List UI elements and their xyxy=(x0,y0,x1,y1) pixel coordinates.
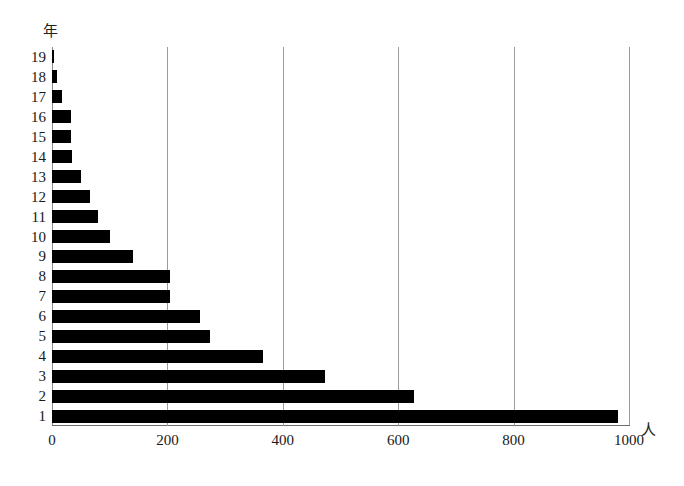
bar-year-3 xyxy=(52,370,325,383)
x-tick-label-400: 400 xyxy=(272,432,295,448)
bar-chart: 年 人 19181716151413121110987654321 020040… xyxy=(0,0,684,486)
y-tick-label-4: 4 xyxy=(0,349,46,363)
bar-row xyxy=(52,290,630,309)
y-tick-label-18: 18 xyxy=(0,70,46,84)
y-tick-label-8: 8 xyxy=(0,269,46,283)
x-tick-label-0: 0 xyxy=(48,432,56,448)
bar-year-8 xyxy=(52,270,170,283)
bar-row xyxy=(52,370,630,389)
y-tick-label-5: 5 xyxy=(0,329,46,343)
bar-row xyxy=(52,350,630,369)
y-tick-label-2: 2 xyxy=(0,389,46,403)
bar-year-18 xyxy=(52,70,57,83)
bar-row xyxy=(52,210,630,229)
y-axis-unit-label: 年 xyxy=(43,24,58,39)
bar-year-15 xyxy=(52,130,71,143)
bar-row xyxy=(52,390,630,409)
bar-year-2 xyxy=(52,390,414,403)
bar-row xyxy=(52,270,630,289)
bar-year-1 xyxy=(52,410,618,423)
y-tick-label-10: 10 xyxy=(0,230,46,244)
bar-row xyxy=(52,110,630,129)
bar-year-9 xyxy=(52,250,133,263)
bar-row xyxy=(52,230,630,249)
bar-year-5 xyxy=(52,330,210,343)
bar-year-17 xyxy=(52,90,62,103)
bar-year-6 xyxy=(52,310,200,323)
bar-row xyxy=(52,410,630,429)
bar-year-13 xyxy=(52,170,81,183)
y-tick-label-12: 12 xyxy=(0,190,46,204)
bar-row xyxy=(52,310,630,329)
bar-year-19 xyxy=(52,50,54,63)
bar-year-16 xyxy=(52,110,71,123)
y-tick-label-13: 13 xyxy=(0,170,46,184)
bar-year-12 xyxy=(52,190,90,203)
bar-row xyxy=(52,130,630,149)
x-tick-label-1000: 1000 xyxy=(614,432,644,448)
bar-year-10 xyxy=(52,230,110,243)
bar-row xyxy=(52,150,630,169)
plot-area xyxy=(52,47,630,426)
bar-row xyxy=(52,190,630,209)
bar-row xyxy=(52,50,630,69)
bar-row xyxy=(52,170,630,189)
y-tick-label-19: 19 xyxy=(0,50,46,64)
y-tick-label-6: 6 xyxy=(0,309,46,323)
bar-row xyxy=(52,330,630,349)
y-tick-label-14: 14 xyxy=(0,150,46,164)
y-tick-label-16: 16 xyxy=(0,110,46,124)
x-axis-tick-labels: 02004006008001000 xyxy=(0,432,684,456)
bar-year-7 xyxy=(52,290,170,303)
y-tick-label-1: 1 xyxy=(0,409,46,423)
x-tick-label-200: 200 xyxy=(156,432,179,448)
bar-year-11 xyxy=(52,210,98,223)
x-tick-label-600: 600 xyxy=(387,432,410,448)
y-tick-label-3: 3 xyxy=(0,369,46,383)
bar-row xyxy=(52,90,630,109)
bar-row xyxy=(52,250,630,269)
y-tick-label-17: 17 xyxy=(0,90,46,104)
y-tick-label-9: 9 xyxy=(0,249,46,263)
bar-year-14 xyxy=(52,150,72,163)
bar-year-4 xyxy=(52,350,263,363)
y-tick-label-7: 7 xyxy=(0,289,46,303)
y-axis-tick-labels: 19181716151413121110987654321 xyxy=(0,47,46,426)
y-tick-label-15: 15 xyxy=(0,130,46,144)
scan-edge xyxy=(0,478,684,486)
y-tick-label-11: 11 xyxy=(0,210,46,224)
bar-row xyxy=(52,70,630,89)
x-tick-label-800: 800 xyxy=(502,432,525,448)
